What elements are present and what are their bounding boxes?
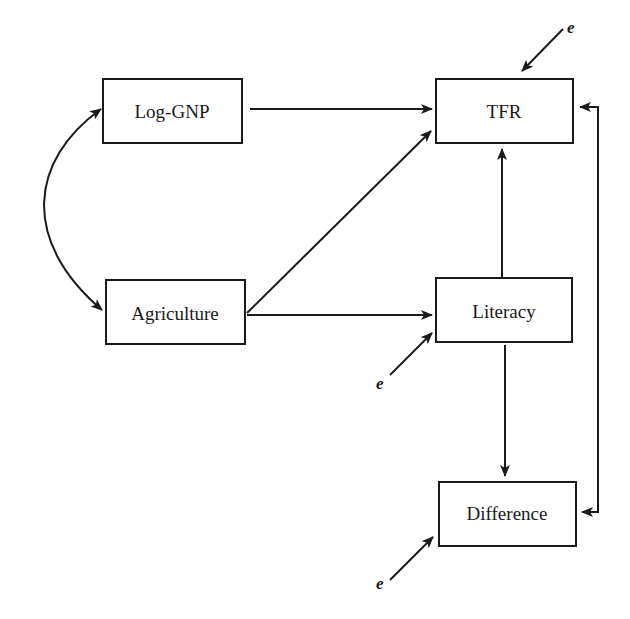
node-literacy: Literacy [436,278,572,342]
node-loggnp: Log-GNP [103,79,242,143]
error-arrow-difference [390,537,433,580]
node-label-loggnp: Log-GNP [135,101,210,122]
edge-loggnp-agriculture-correlation [44,109,102,310]
edge-agriculture-tfr [247,131,431,313]
error-arrow-literacy [390,333,432,375]
path-diagram: e e e Log-GNP TFR Agriculture Literacy D… [0,0,630,619]
node-difference: Difference [439,482,576,546]
node-label-agriculture: Agriculture [131,303,219,324]
edge-difference-tfr [580,107,598,512]
node-label-tfr: TFR [487,101,522,122]
node-label-difference: Difference [467,503,548,524]
error-label-literacy: e [376,374,384,393]
error-arrow-tfr [522,29,563,71]
node-tfr: TFR [436,79,573,143]
node-label-literacy: Literacy [472,301,536,322]
error-label-difference: e [376,574,384,593]
node-agriculture: Agriculture [106,280,245,344]
error-label-tfr: e [567,18,575,37]
